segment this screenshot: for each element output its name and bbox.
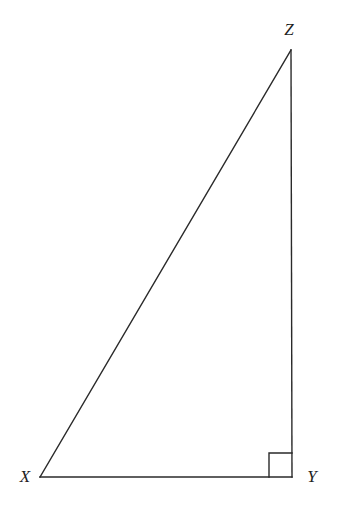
triangle-diagram-svg (0, 0, 337, 512)
vertex-label-y: Y (307, 468, 316, 485)
side-yz-leg (291, 50, 292, 477)
vertex-label-z: Z (284, 21, 293, 38)
figure-background (0, 0, 337, 512)
vertex-label-x: X (20, 468, 30, 485)
geometry-figure: Z X Y (0, 0, 337, 512)
